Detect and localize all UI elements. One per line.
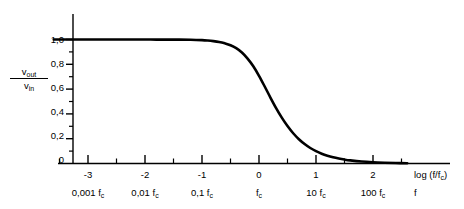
chart-container: vout vin 1,0 0,8 0,6 0,4 0,2 0 -3 -2 -1 …	[0, 0, 464, 209]
plot-area	[0, 0, 464, 209]
y-major-ticks	[66, 40, 73, 139]
response-curve	[54, 39, 407, 163]
